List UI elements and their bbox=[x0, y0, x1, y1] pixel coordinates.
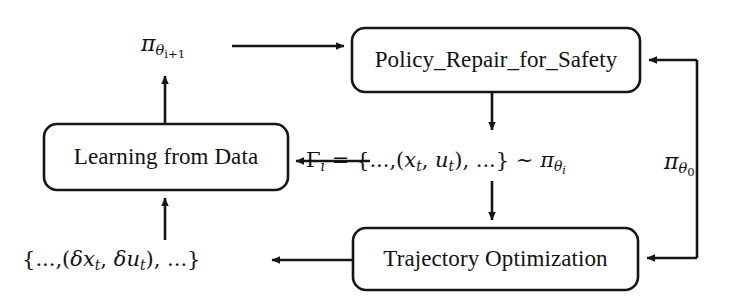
lead-ellipsis: ..., bbox=[35, 247, 62, 271]
trail-ellipsis: , ... bbox=[462, 148, 495, 172]
math-label-trajectory-set: Γi = {...,(xt, ut), ...} ~ πθi bbox=[306, 150, 566, 171]
math-label-policy-init: πθ0 bbox=[664, 151, 695, 173]
math-label-policy-next: πθi+1 bbox=[141, 33, 185, 55]
open-brace: { bbox=[22, 247, 35, 271]
control-symbol: u bbox=[126, 247, 140, 271]
pi-symbol: π bbox=[540, 148, 554, 172]
label-trajectory-optimization: Trajectory Optimization bbox=[353, 228, 638, 290]
policy-init-index: 0 bbox=[687, 165, 694, 179]
open-brace: { bbox=[356, 148, 369, 172]
close-brace: } bbox=[187, 247, 200, 271]
state-symbol: x bbox=[83, 247, 95, 271]
equals-symbol: = bbox=[332, 148, 350, 172]
lead-ellipsis: ..., bbox=[369, 148, 396, 172]
theta-symbol: θ bbox=[155, 42, 164, 58]
diagram-canvas: Policy_Repair_for_Safety Learning from D… bbox=[0, 0, 744, 305]
tilde-symbol: ~ bbox=[516, 148, 534, 172]
label-learning-from-data: Learning from Data bbox=[44, 124, 288, 190]
delta-symbol-2: δ bbox=[114, 247, 127, 271]
state-symbol: x bbox=[404, 148, 416, 172]
policy-next-index: i+1 bbox=[164, 47, 185, 61]
close-brace: } bbox=[496, 148, 509, 172]
math-label-delta-set: {...,(δxt, δut), ...} bbox=[22, 249, 200, 270]
pi-symbol: π bbox=[141, 31, 155, 56]
theta-symbol: θ bbox=[678, 160, 687, 176]
pi-symbol: π bbox=[664, 149, 678, 174]
theta-subscript: i bbox=[562, 164, 566, 177]
trail-ellipsis: , ... bbox=[154, 247, 187, 271]
delta-symbol: δ bbox=[70, 247, 83, 271]
gamma-symbol: Γ bbox=[306, 148, 321, 172]
close-paren: ) bbox=[146, 247, 154, 271]
control-symbol: u bbox=[435, 148, 449, 172]
label-policy-repair: Policy_Repair_for_Safety bbox=[352, 28, 640, 92]
